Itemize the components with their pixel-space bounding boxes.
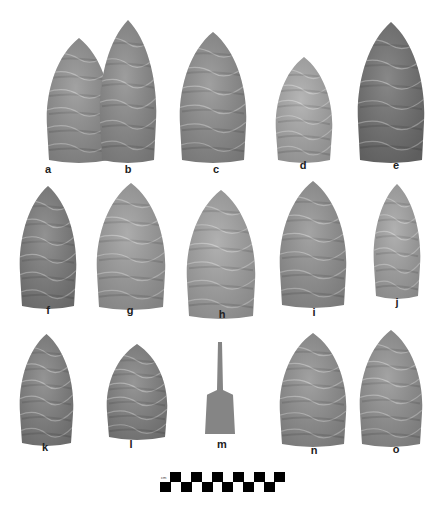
projectile-point-d bbox=[274, 57, 334, 164]
specimen-label-g: g bbox=[120, 304, 140, 316]
specimen-label-e: e bbox=[386, 159, 406, 171]
projectile-point-e bbox=[356, 22, 426, 164]
specimen-label-d: d bbox=[293, 159, 313, 171]
projectile-point-c bbox=[178, 32, 248, 164]
projectile-point-m bbox=[203, 342, 237, 438]
scale-unit-label: cm bbox=[161, 475, 166, 480]
scale-segment bbox=[233, 472, 244, 482]
projectile-point-n bbox=[278, 333, 348, 448]
specimen-label-f: f bbox=[38, 304, 58, 316]
scale-segment bbox=[181, 482, 192, 492]
specimen-label-j: j bbox=[387, 296, 407, 308]
scale-segment bbox=[160, 482, 171, 492]
projectile-point-g bbox=[95, 183, 167, 311]
projectile-point-o bbox=[358, 330, 424, 448]
scale-segment bbox=[254, 472, 265, 482]
specimen-label-h: h bbox=[212, 308, 232, 320]
specimen-label-o: o bbox=[386, 443, 406, 455]
projectile-point-j bbox=[372, 184, 422, 300]
specimen-label-b: b bbox=[118, 163, 138, 175]
scale-segment bbox=[222, 482, 233, 492]
specimen-label-a: a bbox=[38, 163, 58, 175]
scale-segment bbox=[170, 472, 181, 482]
specimen-label-c: c bbox=[206, 163, 226, 175]
scale-segment bbox=[202, 482, 213, 492]
specimen-label-k: k bbox=[35, 441, 55, 453]
specimen-label-l: l bbox=[121, 438, 141, 450]
projectile-point-b bbox=[98, 20, 158, 164]
specimen-label-m: m bbox=[212, 438, 232, 450]
projectile-point-i bbox=[278, 181, 348, 309]
scale-segment bbox=[243, 482, 254, 492]
projectile-point-l bbox=[105, 344, 169, 441]
projectile-point-k bbox=[18, 334, 75, 447]
projectile-point-h bbox=[185, 190, 257, 320]
scale-segment bbox=[191, 472, 202, 482]
scale-bar bbox=[160, 472, 285, 493]
scale-segment bbox=[212, 472, 223, 482]
specimen-label-i: i bbox=[304, 306, 324, 318]
specimen-label-n: n bbox=[304, 444, 324, 456]
projectile-point-f bbox=[18, 186, 78, 310]
scale-segment bbox=[274, 472, 285, 482]
scale-segment bbox=[264, 482, 275, 492]
